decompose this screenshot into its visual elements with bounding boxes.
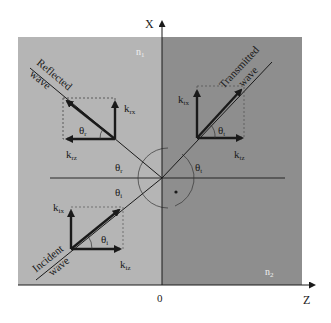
normal-dot [174,190,177,193]
refraction-diagram: X Z 0 n1 n2 Reflected wave Transmitted w… [0,0,331,323]
x-axis-label: X [145,17,154,31]
z-axis-label: Z [303,293,310,307]
origin-label: 0 [157,292,163,304]
